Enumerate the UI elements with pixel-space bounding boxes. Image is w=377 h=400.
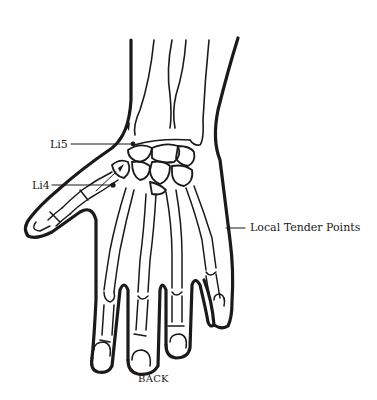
hand-skeleton-illustration <box>0 0 377 400</box>
forearm-bones <box>134 40 209 145</box>
li4-point-marker <box>110 182 115 187</box>
label-local-tender-points: Local Tender Points <box>250 222 360 233</box>
hand-diagram: Li5 Li4 Local Tender Points BACK <box>0 0 377 400</box>
label-li5: Li5 <box>50 139 68 150</box>
hand-outline <box>25 38 238 374</box>
li4-arrow-icon <box>118 164 124 172</box>
label-li4: Li4 <box>32 180 50 191</box>
diagram-caption: BACK <box>138 374 169 384</box>
thumb-nail <box>34 222 50 231</box>
li5-point-marker <box>131 142 136 147</box>
carpal-bones <box>112 144 194 194</box>
